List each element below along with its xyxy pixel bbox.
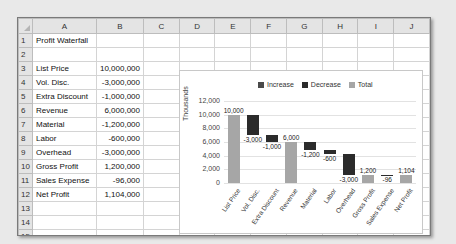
cell-b1[interactable] (96, 34, 143, 48)
cell-a13[interactable] (32, 202, 96, 216)
cell-f1[interactable] (251, 34, 287, 48)
cell-e2[interactable] (215, 48, 251, 62)
cell-b13[interactable] (96, 202, 143, 216)
cell-b4[interactable]: -3,000,000 (96, 76, 143, 90)
cell-c8[interactable] (143, 132, 179, 146)
bar-material[interactable] (304, 142, 316, 150)
cell-g2[interactable] (286, 48, 322, 62)
cell-a1[interactable]: Profit Waterfall (32, 34, 96, 48)
cell-c4[interactable] (143, 76, 179, 90)
column-header-f[interactable]: F (251, 19, 287, 34)
cell-g1[interactable] (286, 34, 322, 48)
row-header[interactable]: 4 (19, 76, 33, 90)
cell-c15[interactable] (143, 230, 179, 237)
cell-c7[interactable] (143, 118, 179, 132)
cell-a2[interactable] (32, 48, 96, 62)
cell-b14[interactable] (96, 216, 143, 230)
cell-d2[interactable] (179, 48, 215, 62)
cell-a9[interactable]: Overhead (32, 146, 96, 160)
cell-b12[interactable]: 1,104,000 (96, 188, 143, 202)
spreadsheet-window: ABCDEFGHIJ 1Profit Waterfall23List Price… (17, 17, 431, 236)
cell-f2[interactable] (251, 48, 287, 62)
cell-b10[interactable]: 1,200,000 (96, 160, 143, 174)
cell-a11[interactable]: Sales Expense (32, 174, 96, 188)
row-header[interactable]: 6 (19, 104, 33, 118)
column-header-e[interactable]: E (215, 19, 251, 34)
cell-c13[interactable] (143, 202, 179, 216)
cell-c5[interactable] (143, 90, 179, 104)
cell-b7[interactable]: -1,200,000 (96, 118, 143, 132)
cell-b6[interactable]: 6,000,000 (96, 104, 143, 118)
cell-i2[interactable] (358, 48, 394, 62)
cell-a12[interactable]: Net Profit (32, 188, 96, 202)
cell-j2[interactable] (394, 48, 430, 62)
cell-c9[interactable] (143, 146, 179, 160)
y-tick-label: 12,000 (184, 97, 220, 105)
cell-c6[interactable] (143, 104, 179, 118)
row-header[interactable]: 3 (19, 62, 33, 76)
cell-c11[interactable] (143, 174, 179, 188)
cell-a10[interactable]: Gross Profit (32, 160, 96, 174)
cell-b9[interactable]: -3,000,000 (96, 146, 143, 160)
bar-vol-disc-[interactable] (247, 115, 259, 136)
bar-revenue[interactable] (285, 142, 297, 183)
column-header-c[interactable]: C (143, 19, 179, 34)
cell-c2[interactable] (143, 48, 179, 62)
legend-label: Decrease (311, 81, 341, 88)
column-header-b[interactable]: B (96, 19, 143, 34)
cell-c1[interactable] (143, 34, 179, 48)
row-header[interactable]: 1 (19, 34, 33, 48)
column-header-h[interactable]: H (322, 19, 358, 34)
bar-list-price[interactable] (228, 115, 240, 183)
cell-b3[interactable]: 10,000,000 (96, 62, 143, 76)
cell-b11[interactable]: -96,000 (96, 174, 143, 188)
row-header[interactable]: 7 (19, 118, 33, 132)
row-header[interactable]: 12 (19, 188, 33, 202)
row-header[interactable]: 5 (19, 90, 33, 104)
legend-swatch-icon (302, 82, 308, 88)
cell-b8[interactable]: -600,000 (96, 132, 143, 146)
data-label: -1,000 (257, 143, 287, 150)
row-header[interactable]: 8 (19, 132, 33, 146)
cell-c14[interactable] (143, 216, 179, 230)
cell-c12[interactable] (143, 188, 179, 202)
row-header[interactable]: 15 (19, 230, 33, 237)
cell-h1[interactable] (322, 34, 358, 48)
cell-a7[interactable]: Material (32, 118, 96, 132)
column-header-j[interactable]: J (394, 19, 430, 34)
cell-a4[interactable]: Vol. Disc. (32, 76, 96, 90)
row-header[interactable]: 9 (19, 146, 33, 160)
row-header[interactable]: 10 (19, 160, 33, 174)
column-header-g[interactable]: G (286, 19, 322, 34)
cell-c10[interactable] (143, 160, 179, 174)
x-tick-label: List Price (220, 187, 241, 213)
cell-h2[interactable] (322, 48, 358, 62)
cell-a14[interactable] (32, 216, 96, 230)
bar-labor[interactable] (324, 150, 336, 154)
cell-c3[interactable] (143, 62, 179, 76)
waterfall-chart[interactable]: IncreaseDecreaseTotal Thousands 02,0004,… (179, 70, 423, 234)
cell-b2[interactable] (96, 48, 143, 62)
row-header[interactable]: 2 (19, 48, 33, 62)
column-header-a[interactable]: A (32, 19, 96, 34)
column-header-i[interactable]: I (358, 19, 394, 34)
cell-b5[interactable]: -1,000,000 (96, 90, 143, 104)
cell-a8[interactable]: Labor (32, 132, 96, 146)
cell-a6[interactable]: Revenue (32, 104, 96, 118)
cell-j1[interactable] (394, 34, 430, 48)
cell-b15[interactable] (96, 230, 143, 237)
plot-area: 02,0004,0006,0008,00010,00012,00010,000L… (224, 101, 416, 183)
row-header[interactable]: 14 (19, 216, 33, 230)
cell-a5[interactable]: Extra Discount (32, 90, 96, 104)
cell-d1[interactable] (179, 34, 215, 48)
cell-e1[interactable] (215, 34, 251, 48)
select-all-corner[interactable] (19, 19, 33, 34)
row-header[interactable]: 11 (19, 174, 33, 188)
bar-net-profit[interactable] (400, 175, 412, 183)
column-header-d[interactable]: D (179, 19, 215, 34)
row-header[interactable]: 13 (19, 202, 33, 216)
cell-a15[interactable] (32, 230, 96, 237)
legend-swatch-icon (349, 82, 355, 88)
cell-i1[interactable] (358, 34, 394, 48)
cell-a3[interactable]: List Price (32, 62, 96, 76)
